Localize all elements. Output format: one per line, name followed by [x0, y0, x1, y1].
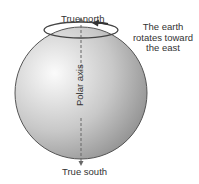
rotation-caption-line1: The earth	[143, 21, 184, 32]
polar-axis-label: Polar axis	[74, 64, 85, 106]
true-south-label: True south	[62, 166, 107, 177]
rotation-caption-line2: rotates toward	[133, 32, 193, 43]
rotation-caption-line3: the east	[146, 42, 180, 53]
rotation-caption: The earth rotates toward the east	[130, 22, 196, 54]
true-north-label: True north	[61, 13, 104, 24]
